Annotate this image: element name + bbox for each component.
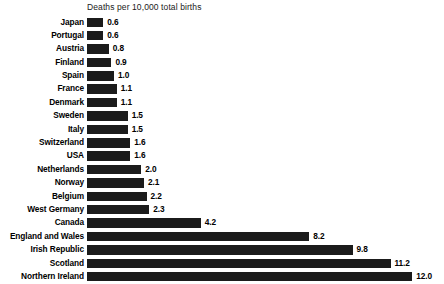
value-label: 0.6: [107, 30, 118, 41]
category-label: Sweden: [53, 110, 84, 121]
category-label: Belgium: [52, 191, 84, 202]
bar-wrapper: [87, 58, 111, 68]
category-label: Northern Ireland: [21, 271, 84, 282]
category-label: Irish Republic: [31, 244, 84, 255]
bar-row: Northern Ireland12.0: [0, 270, 444, 283]
bar-row: West Germany2.3: [0, 203, 444, 216]
bar: [87, 205, 149, 215]
bar-row: Belgium2.2: [0, 190, 444, 203]
value-label: 12.0: [416, 271, 432, 282]
category-label: France: [57, 83, 84, 94]
category-label: USA: [67, 150, 84, 161]
bar-row: France1.1: [0, 83, 444, 96]
bar-wrapper: [87, 44, 109, 54]
category-label: Switzerland: [39, 137, 84, 148]
category-label: West Germany: [27, 204, 84, 215]
value-label: 1.0: [118, 70, 129, 81]
category-label: Japan: [61, 17, 84, 28]
category-label: Canada: [55, 217, 84, 228]
bar-row: Austria0.8: [0, 43, 444, 56]
bar: [87, 259, 391, 269]
value-label: 4.2: [205, 217, 216, 228]
bar-wrapper: [87, 151, 130, 161]
value-label: 11.2: [395, 258, 410, 269]
bar: [87, 31, 103, 41]
value-label: 8.2: [313, 231, 324, 242]
bar-row: Portugal0.6: [0, 29, 444, 42]
bar-row: Spain1.0: [0, 70, 444, 83]
bar: [87, 245, 353, 255]
bar-wrapper: [87, 178, 144, 188]
bar-wrapper: [87, 138, 130, 148]
value-label: 1.1: [121, 83, 132, 94]
bar-wrapper: [87, 165, 141, 175]
bar: [87, 125, 128, 135]
bar: [87, 138, 130, 148]
category-label: England and Wales: [10, 231, 84, 242]
category-label: Portugal: [51, 30, 84, 41]
bar-wrapper: [87, 232, 309, 242]
bar: [87, 98, 117, 108]
bar-wrapper: [87, 218, 201, 228]
bar: [87, 18, 103, 28]
bar: [87, 165, 141, 175]
bar: [87, 178, 144, 188]
bar: [87, 44, 109, 54]
bar-row: Denmark1.1: [0, 96, 444, 109]
bar: [87, 151, 130, 161]
bar-row: Sweden1.5: [0, 110, 444, 123]
value-label: 1.1: [121, 97, 132, 108]
bar-wrapper: [87, 192, 147, 202]
category-label: Denmark: [49, 97, 84, 108]
bar-wrapper: [87, 18, 103, 28]
value-label: 2.1: [148, 177, 159, 188]
plot-area: Japan0.6Portugal0.6Austria0.8Finland0.9S…: [0, 16, 444, 284]
bar-wrapper: [87, 259, 391, 269]
bar: [87, 218, 201, 228]
value-label: 9.8: [357, 244, 368, 255]
bar-wrapper: [87, 31, 103, 41]
value-label: 0.9: [115, 57, 126, 68]
category-label: Scotland: [50, 258, 84, 269]
bar-row: Scotland11.2: [0, 257, 444, 270]
value-label: 2.3: [153, 204, 164, 215]
bar-row: Italy1.5: [0, 123, 444, 136]
value-label: 1.6: [134, 137, 145, 148]
bar-chart: Deaths per 10,000 total births Japan0.6P…: [0, 0, 444, 284]
bar: [87, 232, 309, 242]
value-label: 2.0: [145, 164, 156, 175]
bar-wrapper: [87, 98, 117, 108]
bar: [87, 272, 412, 282]
bar: [87, 71, 114, 81]
bar: [87, 192, 147, 202]
bar: [87, 84, 117, 94]
bar-row: USA1.6: [0, 150, 444, 163]
bar-row: Norway2.1: [0, 177, 444, 190]
bar-wrapper: [87, 84, 117, 94]
value-label: 1.5: [132, 124, 143, 135]
category-label: Spain: [62, 70, 84, 81]
category-label: Finland: [55, 57, 84, 68]
bar-wrapper: [87, 245, 353, 255]
bar-row: Irish Republic9.8: [0, 244, 444, 257]
value-label: 1.6: [134, 150, 145, 161]
bar: [87, 58, 111, 68]
bar-row: Finland0.9: [0, 56, 444, 69]
bar-row: Switzerland1.6: [0, 137, 444, 150]
bar-wrapper: [87, 71, 114, 81]
bar-row: Japan0.6: [0, 16, 444, 29]
bar: [87, 111, 128, 121]
bar-wrapper: [87, 125, 128, 135]
value-label: 0.8: [113, 43, 124, 54]
category-label: Netherlands: [37, 164, 84, 175]
value-label: 2.2: [151, 191, 162, 202]
value-label: 0.6: [107, 17, 118, 28]
category-label: Italy: [68, 124, 84, 135]
bar-row: Netherlands2.0: [0, 163, 444, 176]
bar-row: Canada4.2: [0, 217, 444, 230]
category-label: Austria: [56, 43, 84, 54]
value-label: 1.5: [132, 110, 143, 121]
bar-wrapper: [87, 111, 128, 121]
bar-row: England and Wales8.2: [0, 230, 444, 243]
bar-wrapper: [87, 205, 149, 215]
